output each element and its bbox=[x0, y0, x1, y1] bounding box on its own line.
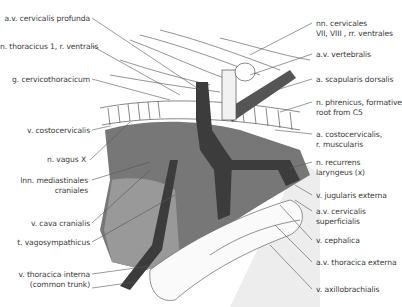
label-cervicalis-profunda: a.v. cervicalis profunda bbox=[4, 14, 90, 24]
label-cava: v. cava cranialis bbox=[4, 219, 90, 229]
label-line-1: g. cervicothoracicum bbox=[4, 75, 90, 85]
label-line-1: a. scapularis dorsalis bbox=[316, 75, 393, 85]
label-vagosympathicus: t. vagosympathicus bbox=[4, 238, 90, 248]
label-vagus: n. vagus X bbox=[4, 155, 86, 165]
label-line-1: n. thoracicus 1, r. ventralis bbox=[0, 42, 90, 52]
label-thoracicus-1: n. thoracicus 1, r. ventralis bbox=[0, 42, 90, 52]
label-phrenicus: n. phrenicus, formativeroot from C5 bbox=[316, 98, 402, 118]
label-mediastinales: lnn. mediastinalescraniales bbox=[4, 176, 88, 196]
label-line-1: v. cephalica bbox=[316, 236, 360, 246]
label-cervicothoracicum: g. cervicothoracicum bbox=[4, 75, 90, 85]
label-thoracica-externa: a.v. thoracica externa bbox=[316, 258, 396, 268]
label-recurrens: n. recurrenslaryngeus (x) bbox=[316, 158, 365, 178]
vessel-right bbox=[226, 70, 296, 122]
label-jugularis: v. jugularis externa bbox=[316, 191, 387, 201]
label-line-1: nn. cervicales bbox=[316, 19, 393, 29]
label-axillobrachialis: v. axillobrachialis bbox=[316, 285, 379, 295]
label-costocervicalis-v: v. costocervicalis bbox=[4, 126, 90, 136]
label-line-1: a.v. thoracica externa bbox=[316, 258, 396, 268]
label-cervicales: nn. cervicalesVII, VIII , rr. ventrales bbox=[316, 19, 393, 39]
label-line-1: a.v. cervicalis profunda bbox=[4, 14, 90, 24]
label-line-1: v. cava cranialis bbox=[4, 219, 90, 229]
label-line-2: laryngeus (x) bbox=[316, 168, 365, 178]
label-cephalica: v. cephalica bbox=[316, 236, 360, 246]
label-scapularis: a. scapularis dorsalis bbox=[316, 75, 393, 85]
label-thoracica-interna: v. thoracica interna(common trunk) bbox=[4, 270, 90, 290]
label-line-1: a.v. vertebralis bbox=[316, 50, 371, 60]
label-line-2: craniales bbox=[4, 186, 88, 196]
label-line-1: t. vagosympathicus bbox=[4, 238, 90, 248]
label-cervicalis-superf: a.v. cervicalissuperficialis bbox=[316, 207, 366, 227]
label-line-2: (common trunk) bbox=[4, 280, 90, 290]
label-line-2: VII, VIII , rr. ventrales bbox=[316, 29, 393, 39]
label-line-2: r. muscularis bbox=[316, 140, 382, 150]
vertebra bbox=[222, 70, 236, 120]
label-line-1: v. axillobrachialis bbox=[316, 285, 379, 295]
label-costocervicalis-a: a. costocervicalis,r. muscularis bbox=[316, 130, 382, 150]
label-line-2: root from C5 bbox=[316, 108, 402, 118]
label-line-1: n. phrenicus, formative bbox=[316, 98, 402, 108]
label-line-1: lnn. mediastinales bbox=[4, 176, 88, 186]
label-line-1: a.v. cervicalis bbox=[316, 207, 366, 217]
label-line-1: a. costocervicalis, bbox=[316, 130, 382, 140]
label-line-1: v. jugularis externa bbox=[316, 191, 387, 201]
label-line-1: v. thoracica interna bbox=[4, 270, 90, 280]
label-line-2: superficialis bbox=[316, 217, 366, 227]
label-line-1: v. costocervicalis bbox=[4, 126, 90, 136]
label-line-1: n. recurrens bbox=[316, 158, 365, 168]
ganglion bbox=[235, 63, 255, 81]
label-vertebralis: a.v. vertebralis bbox=[316, 50, 371, 60]
label-line-1: n. vagus X bbox=[4, 155, 86, 165]
